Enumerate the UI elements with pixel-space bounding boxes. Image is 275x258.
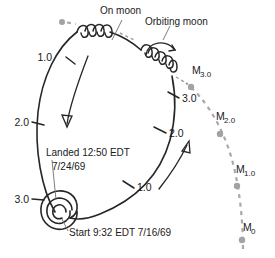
tick-return-2 — [154, 127, 166, 133]
moon-dot-m3 — [188, 84, 194, 90]
leader-orbiting-moon — [163, 26, 170, 40]
on-moon-coil — [77, 24, 112, 37]
tick-label-return-1: 1.0 — [137, 181, 152, 193]
trajectory-diagram: On moon Orbiting moon 1.0 2.0 3.0 3.0 2.… — [0, 0, 275, 258]
moon-label-m0-sub: 0 — [251, 227, 256, 236]
tick-outbound-3 — [32, 199, 44, 200]
label-landed-date: 7/24/69 — [52, 161, 86, 172]
moon-track-dashed-path — [186, 83, 243, 249]
tick-label-return-3: 3.0 — [182, 92, 197, 104]
tick-return-1 — [123, 181, 134, 188]
moon-label-m2-sub: 2.0 — [224, 116, 236, 125]
moon-dot-m0 — [239, 237, 245, 243]
label-on-moon: On moon — [100, 5, 141, 16]
label-landed: Landed 12:50 EDT — [46, 147, 130, 158]
moon-label-m0: M 0 — [243, 221, 256, 236]
orbiting-moon-coil — [141, 45, 177, 72]
moon-label-m3: M 3.0 — [192, 64, 212, 79]
moon-dot-m2 — [217, 131, 223, 137]
tick-label-return-2: 2.0 — [169, 127, 184, 139]
moon-label-m2: M 2.0 — [216, 110, 236, 125]
moon-label-m1: M 1.0 — [236, 163, 256, 178]
label-orbiting-moon: Orbiting moon — [145, 16, 208, 27]
tick-label-outbound-1: 1.0 — [37, 51, 52, 63]
moon-dot-m1 — [234, 183, 240, 189]
outbound-direction-arrow-shaft — [67, 56, 88, 124]
moon-label-m3-sub: 3.0 — [200, 70, 212, 79]
tick-label-outbound-3: 3.0 — [14, 193, 29, 205]
tick-label-outbound-2: 2.0 — [14, 116, 29, 128]
tick-return-3 — [168, 92, 179, 98]
tick-outbound-1 — [66, 57, 75, 64]
moon-label-m1-sub: 1.0 — [244, 169, 256, 178]
label-start: Start 9:32 EDT 7/16/69 — [69, 227, 172, 238]
moon-marker-dash-topleft — [67, 23, 76, 25]
earth-spiral — [41, 191, 77, 229]
moon-marker-dot-topleft — [59, 19, 65, 25]
tick-outbound-2 — [32, 122, 44, 125]
trajectory-svg: On moon Orbiting moon 1.0 2.0 3.0 3.0 2.… — [0, 0, 275, 258]
